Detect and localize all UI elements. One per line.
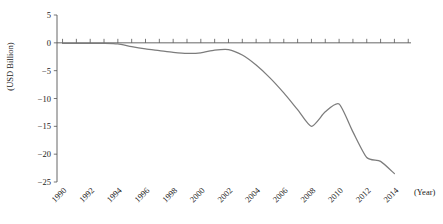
- y-tick-label: −5: [42, 66, 51, 76]
- y-tick-label: −20: [38, 149, 51, 159]
- x-tick-label: 1992: [77, 185, 96, 204]
- y-tick-label: 0: [47, 38, 51, 48]
- x-axis: 1990199219941996199820002002200420062008…: [49, 39, 411, 205]
- x-tick-label: 1994: [105, 185, 125, 205]
- y-tick-label: −15: [38, 121, 51, 131]
- chart-container: 50−5−10−15−20−25 19901992199419961998200…: [0, 0, 443, 224]
- x-tick-label: 1990: [49, 185, 68, 204]
- axis-labels-group: (USD Billion)(Year): [5, 42, 435, 197]
- x-tick-label: 2000: [188, 185, 207, 204]
- x-tick-label: 2006: [271, 185, 290, 204]
- series-line-balance: [63, 43, 395, 173]
- line-chart: 50−5−10−15−20−25 19901992199419961998200…: [0, 0, 443, 224]
- x-axis-unit-label: (Year): [414, 187, 435, 197]
- x-tick-label: 1996: [132, 185, 151, 204]
- x-tick-label: 2010: [326, 185, 345, 204]
- y-tick-label: −10: [38, 94, 51, 104]
- y-tick-label: 5: [47, 10, 51, 20]
- y-axis-unit-label: (USD Billion): [5, 42, 15, 91]
- data-series-group: [63, 43, 395, 173]
- x-tick-label: 2008: [298, 185, 317, 204]
- x-tick-label: 2012: [354, 185, 373, 204]
- x-tick-label: 2004: [243, 185, 263, 205]
- x-tick-label: 2014: [381, 185, 401, 205]
- x-tick-label: 2002: [215, 185, 234, 204]
- x-tick-label: 1998: [160, 185, 179, 204]
- y-axis: 50−5−10−15−20−25: [38, 10, 57, 187]
- y-tick-label: −25: [38, 177, 51, 187]
